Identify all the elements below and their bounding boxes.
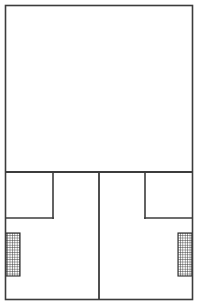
line-drawing-svg: [0, 0, 199, 306]
left-hatched-block-pattern-fill: [6, 233, 20, 276]
technical-drawing-canvas: [0, 0, 199, 306]
right-hatched-block: [178, 233, 192, 276]
left-hatched-block: [6, 233, 20, 276]
partition-walls-group: [5, 172, 193, 300]
right-hatched-block-pattern-fill: [178, 233, 192, 276]
